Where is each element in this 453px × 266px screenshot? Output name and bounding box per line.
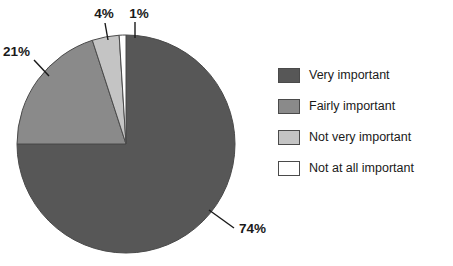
legend-label-very-important: Very important [309,69,390,82]
legend-swatch-icon-very-important [278,68,300,83]
legend-item-fairly-important[interactable]: Fairly important [278,95,450,118]
pie-label-not-at-all-important: 1% [129,6,149,21]
legend-item-not-at-all-important[interactable]: Not at all important [278,157,450,180]
legend-swatch-icon-not-at-all-important [278,161,300,176]
pie-label-not-very-important: 4% [94,6,114,21]
leader-line-fairly-important [34,60,49,76]
pie-label-fairly-important: 21% [3,44,30,59]
legend-label-not-very-important: Not very important [309,131,411,144]
leader-line-very-important [209,210,234,228]
legend-item-not-very-important[interactable]: Not very important [278,126,450,149]
legend-swatch-icon-not-very-important [278,130,300,145]
legend-label-fairly-important: Fairly important [309,100,395,113]
legend-item-very-important[interactable]: Very important [278,64,450,87]
pie-chart-figure: 74% 21% 4% 1% Very important Fairly impo… [0,0,453,266]
legend-label-not-at-all-important: Not at all important [309,162,414,175]
pie-label-very-important: 74% [239,221,266,236]
chart-legend: Very important Fairly important Not very… [278,64,450,180]
legend-swatch-icon-fairly-important [278,99,300,114]
